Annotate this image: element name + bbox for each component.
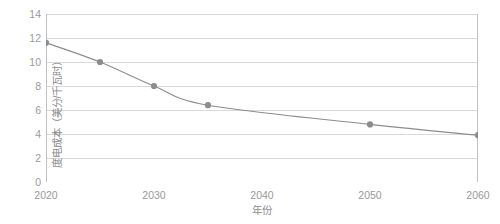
y-axis-title: 度电成本（美分/千瓦时） [52, 56, 63, 169]
x-tick-labels: 20202030204020502060 [0, 0, 500, 224]
line-chart: 02468101214 20202030204020502060 度电成本（美分… [0, 0, 500, 224]
x-tick-label: 2060 [466, 190, 489, 201]
x-axis-title: 年份 [252, 205, 272, 216]
x-tick-label: 2020 [34, 190, 57, 201]
x-tick-label: 2030 [142, 190, 165, 201]
x-tick-label: 2040 [250, 190, 273, 201]
x-tick-label: 2050 [358, 190, 381, 201]
